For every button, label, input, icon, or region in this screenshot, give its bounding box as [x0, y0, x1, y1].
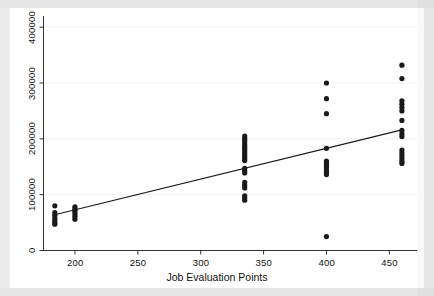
data-point — [324, 146, 329, 151]
data-point — [399, 108, 404, 113]
data-point — [324, 96, 329, 101]
scatter-plot — [0, 0, 434, 296]
figure-container: 0100000200000300000400000 20025030035040… — [0, 0, 434, 296]
x-tick-label: 400 — [318, 257, 334, 268]
plot-area-background — [43, 16, 417, 250]
x-axis-ticks — [75, 251, 389, 255]
y-tick-label: 300000 — [26, 67, 37, 100]
y-tick-label: 200000 — [26, 122, 37, 155]
data-point — [324, 234, 329, 239]
data-point — [324, 80, 329, 85]
x-tick-label: 250 — [130, 257, 146, 268]
data-point — [399, 76, 404, 81]
data-point — [399, 161, 404, 166]
data-point — [324, 111, 329, 116]
y-tick-label: 0 — [26, 248, 37, 253]
y-tick-label: 400000 — [26, 11, 37, 44]
x-tick-label: 350 — [256, 257, 272, 268]
y-tick-label: 100000 — [26, 178, 37, 211]
data-point — [242, 170, 247, 175]
data-point — [52, 203, 57, 208]
y-axis-ticks — [40, 27, 44, 250]
data-point — [399, 134, 404, 139]
data-point — [242, 198, 247, 203]
data-point — [242, 158, 247, 163]
data-point — [52, 222, 57, 227]
x-axis-title: Job Evaluation Points — [0, 271, 434, 283]
data-point — [399, 63, 404, 68]
x-tick-label: 200 — [67, 257, 83, 268]
x-tick-label: 450 — [381, 257, 397, 268]
data-point — [324, 172, 329, 177]
data-point — [399, 118, 404, 123]
data-point — [72, 217, 77, 222]
x-tick-label: 300 — [193, 257, 209, 268]
data-point — [242, 185, 247, 190]
